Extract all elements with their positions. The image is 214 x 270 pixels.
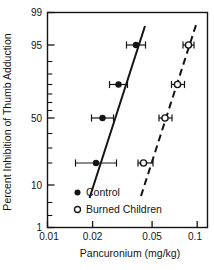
y-tick-label: 10 (31, 180, 43, 191)
data-point (185, 42, 191, 48)
legend-label-burned-children: Burned Children (86, 203, 162, 215)
data-point (162, 115, 168, 121)
chart-svg: 99 95 50 10 1 0.01 0.02 0.05 0.1 Pancuro… (0, 0, 214, 270)
y-tick-label: 50 (31, 113, 43, 124)
control-data-points (93, 42, 139, 166)
y-axis-major-ticks (48, 13, 55, 228)
y-tick-label: 95 (31, 40, 43, 51)
legend-label-control: Control (86, 186, 120, 198)
x-tick-label: 0.05 (142, 231, 162, 242)
chart-legend: Control Burned Children (75, 186, 163, 215)
x-tick-label: 0.02 (83, 231, 103, 242)
data-point (133, 42, 139, 48)
control-fit-line (90, 26, 146, 198)
y-axis-title: Percent Inhibition of Thumb Adduction (1, 33, 13, 210)
chart-figure: 99 95 50 10 1 0.01 0.02 0.05 0.1 Pancuro… (0, 0, 214, 270)
y-tick-label: 99 (31, 7, 43, 18)
data-point (140, 160, 146, 166)
x-tick-label: 0.1 (188, 231, 202, 242)
x-axis-ticks (48, 221, 198, 228)
burned-children-fit-line (141, 25, 196, 196)
legend-marker-open-circle (75, 207, 81, 213)
data-point (115, 81, 121, 87)
x-axis-tick-labels: 0.01 0.02 0.05 0.1 (39, 231, 202, 242)
x-tick-label: 0.01 (39, 231, 59, 242)
data-point (93, 160, 99, 166)
data-point (174, 81, 180, 87)
y-axis-minor-ticks (48, 62, 53, 216)
legend-marker-filled-circle (75, 190, 81, 196)
data-point (99, 115, 105, 121)
y-axis-tick-labels: 99 95 50 10 1 (31, 7, 43, 233)
x-axis-title: Pancuronium (mg/kg) (80, 247, 180, 259)
